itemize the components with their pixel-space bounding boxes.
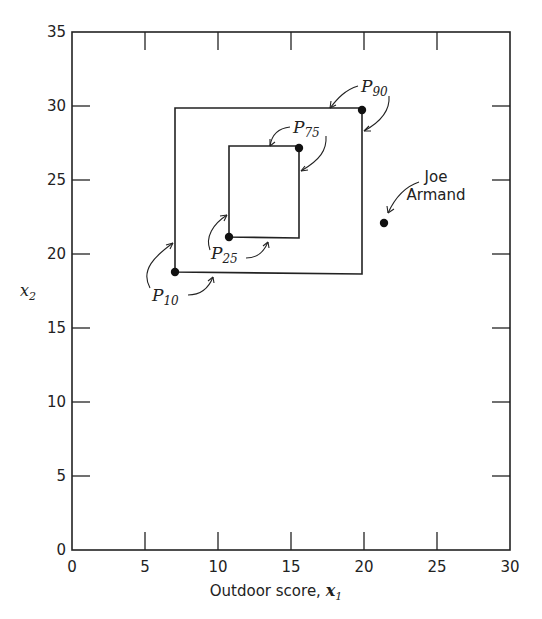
y-tick-label: 30 xyxy=(47,97,66,115)
y-tick-label: 15 xyxy=(47,319,66,337)
y-tick-label: 20 xyxy=(47,245,66,263)
point-p75 xyxy=(295,144,303,152)
x-axis-title: Outdoor score, x1 xyxy=(210,581,342,603)
label-p90: P90 xyxy=(360,76,388,99)
x-tick-label: 30 xyxy=(500,558,519,576)
y-tick-label: 25 xyxy=(47,171,66,189)
p25-p75-box xyxy=(229,146,299,238)
x-tick-label: 5 xyxy=(140,558,150,576)
point-p10 xyxy=(171,268,179,276)
y-tick-label: 5 xyxy=(56,467,66,485)
y-tick-label: 10 xyxy=(47,393,66,411)
x-tick-label: 0 xyxy=(67,558,77,576)
x-tick-label: 25 xyxy=(427,558,446,576)
y-tick-label: 35 xyxy=(47,23,66,41)
point-p25 xyxy=(225,233,233,241)
x-ticks xyxy=(145,32,437,550)
p10-p90-box xyxy=(175,108,362,274)
label-p75: P75 xyxy=(292,117,320,140)
y-tick-labels: 0 5 10 15 20 25 30 35 xyxy=(47,23,66,559)
annotation-armand: Armand xyxy=(407,186,466,204)
x-tick-label: 20 xyxy=(354,558,373,576)
annotation-arrows xyxy=(147,86,419,295)
annotation-joe: Joe xyxy=(424,168,448,186)
y-ticks xyxy=(72,106,510,476)
x-tick-labels: 0 5 10 15 20 25 30 xyxy=(67,558,519,576)
point-p90 xyxy=(358,106,366,114)
plot-frame xyxy=(72,32,510,550)
x-tick-label: 10 xyxy=(208,558,227,576)
percentile-box-chart: 0 5 10 15 20 25 30 0 5 10 15 20 25 30 35… xyxy=(0,0,542,619)
x-tick-label: 15 xyxy=(281,558,300,576)
label-p10: P10 xyxy=(151,285,179,308)
y-tick-label: 0 xyxy=(56,541,66,559)
y-axis-title: x2 xyxy=(20,281,36,303)
data-points xyxy=(171,106,388,276)
point-joe-armand xyxy=(380,219,388,227)
label-p25: P25 xyxy=(210,243,238,266)
